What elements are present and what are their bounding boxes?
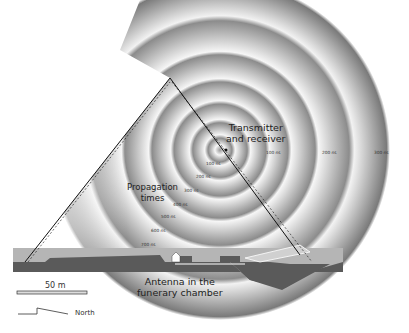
propagation-label-line-2: times bbox=[127, 193, 178, 204]
transmitter-dot bbox=[225, 149, 228, 152]
inside-time-label: 200 ns bbox=[196, 174, 211, 179]
outside-time-label: 200 ns bbox=[322, 150, 337, 155]
transmitter-label: Transmitter and receiver bbox=[226, 122, 286, 144]
scale-bar-label: 50 m bbox=[45, 281, 66, 290]
antenna-label: Antenna in the funerary chamber bbox=[137, 276, 223, 298]
propagation-label-line-1: Propagation bbox=[127, 182, 178, 193]
north-arrow-icon bbox=[18, 308, 68, 314]
inside-time-label: 100 ns bbox=[206, 161, 221, 166]
outside-time-label: 100 ns bbox=[266, 150, 281, 155]
burial-block-1 bbox=[180, 256, 192, 262]
diagram-canvas: Transmitter and receiver Propagation tim… bbox=[0, 0, 409, 333]
outside-time-label: 300 ns bbox=[374, 150, 389, 155]
transmitter-label-line-1: Transmitter bbox=[226, 122, 286, 133]
propagation-label: Propagation times bbox=[127, 182, 178, 204]
scale-bar bbox=[17, 291, 87, 294]
inside-time-label: 500 ns bbox=[161, 214, 176, 219]
transmitter-label-line-2: and receiver bbox=[226, 133, 286, 144]
burial-block-2 bbox=[220, 256, 240, 262]
inside-time-label: 700 ns bbox=[141, 242, 156, 247]
inside-time-label: 600 ns bbox=[151, 228, 166, 233]
inside-time-label: 400 ns bbox=[173, 202, 188, 207]
north-label: North bbox=[75, 309, 95, 317]
antenna-label-line-1: Antenna in the bbox=[137, 276, 223, 287]
antenna-label-line-2: funerary chamber bbox=[137, 287, 223, 298]
inside-time-label: 300 ns bbox=[184, 188, 199, 193]
